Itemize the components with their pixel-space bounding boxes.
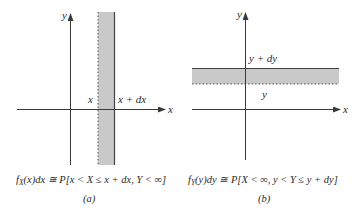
marginal-density-diagram: y x x x + dx fX(x)dx ≅ P[x < X ≤ x + dx,…: [0, 0, 363, 211]
upper-bound-label-a: x + dx: [117, 93, 146, 105]
lower-bound-label-b: y: [261, 88, 267, 100]
panel-b: y x y + dy y fY(y)dy ≅ P[X < ∞, y < Y ≤ …: [188, 8, 348, 205]
horizontal-strip-shading: [192, 68, 339, 84]
formula-b-rest: (y)dy ≅ P[X < ∞, y < Y ≤ y + dy]: [195, 174, 338, 186]
formula-a: fX(x)dx ≅ P[x < X ≤ x + dx, Y < ∞]: [16, 174, 166, 187]
formula-b: fY(y)dy ≅ P[X < ∞, y < Y ≤ y + dy]: [188, 174, 338, 187]
y-axis-label-a: y: [61, 9, 67, 21]
x-axis-label-b: x: [342, 103, 348, 115]
panel-a: y x x x + dx fX(x)dx ≅ P[x < X ≤ x + dx,…: [16, 9, 173, 205]
vertical-strip-shading: [98, 12, 114, 165]
lower-bound-label-a: x: [87, 93, 93, 105]
y-axis-label-b: y: [236, 8, 242, 20]
upper-bound-label-b: y + dy: [248, 52, 277, 64]
caption-b: (b): [258, 193, 271, 205]
x-axis-label-a: x: [167, 103, 173, 115]
caption-a: (a): [83, 193, 96, 205]
formula-a-rest: (x)dx ≅ P[x < X ≤ x + dx, Y < ∞]: [24, 174, 167, 186]
